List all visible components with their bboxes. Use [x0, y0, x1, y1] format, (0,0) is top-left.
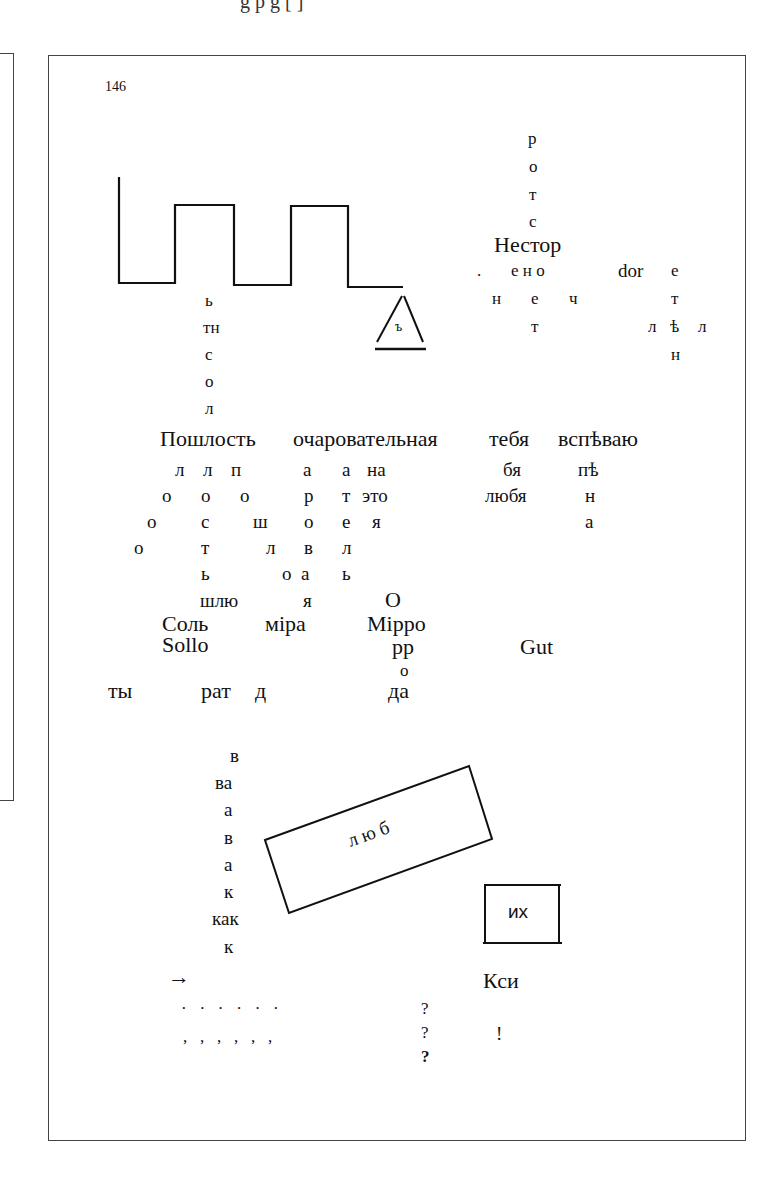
letter: л: [342, 538, 351, 557]
letter: в: [224, 828, 233, 847]
letter: о: [240, 486, 250, 505]
letter: т: [671, 290, 678, 307]
letter: ь: [342, 564, 351, 583]
letter: а: [303, 460, 311, 479]
letter: р: [304, 486, 314, 505]
letter: а: [342, 460, 350, 479]
letter: ь: [205, 292, 213, 309]
letter: пѣ: [578, 460, 598, 479]
commas-row: , , , , , ,: [183, 1028, 272, 1045]
word: да: [388, 680, 409, 702]
letter: ва: [215, 773, 232, 792]
word: Sollo: [162, 634, 208, 656]
question-mark: ?: [421, 1048, 430, 1065]
word: Пошлость: [160, 428, 256, 450]
letter: тн: [203, 319, 220, 336]
word: Міррo: [367, 613, 426, 635]
letter: О: [385, 589, 401, 611]
letter: в: [230, 746, 239, 765]
word-nestor: Нестор: [494, 234, 561, 256]
letter: т: [201, 538, 209, 557]
letter: о: [282, 564, 292, 583]
word: Gut: [520, 636, 553, 658]
word: д: [255, 680, 266, 702]
word: вспѣваю: [558, 428, 638, 450]
letter: т: [531, 318, 538, 335]
question-mark: ?: [421, 1024, 429, 1041]
vertical-letter: с: [529, 213, 537, 230]
letter: т: [342, 486, 350, 505]
word: pp: [392, 636, 414, 658]
letter: о: [162, 486, 172, 505]
letter: ѣ: [670, 318, 679, 335]
word: тебя: [489, 428, 529, 450]
word: как: [212, 909, 239, 928]
letter: л: [205, 400, 213, 417]
vertical-letter: т: [529, 186, 536, 203]
letter: е: [342, 512, 350, 531]
word: очаровательная: [293, 428, 438, 450]
letter: л: [648, 318, 656, 335]
vertical-letter: р: [528, 130, 537, 147]
triangle-letter: ъ: [395, 320, 402, 334]
letter: это: [362, 486, 388, 505]
letter: п: [231, 460, 241, 479]
word-dor: dor: [618, 261, 643, 280]
letter: ш: [253, 512, 268, 531]
letter: ь: [201, 564, 210, 583]
letter: о: [400, 662, 409, 679]
word: рат: [201, 680, 231, 702]
letter: л: [266, 538, 275, 557]
letter: с: [205, 346, 213, 363]
letter: о: [205, 373, 214, 390]
letter: а: [301, 564, 309, 583]
letter: к: [224, 882, 233, 901]
letter: е: [531, 290, 539, 307]
letter: с: [201, 512, 209, 531]
letter: о: [147, 512, 157, 531]
letter: на: [367, 460, 386, 479]
letter: л: [698, 318, 706, 335]
arrow-icon: →: [168, 966, 190, 988]
word: шлю: [200, 591, 238, 610]
word: міра: [265, 613, 306, 635]
letter: н: [585, 486, 595, 505]
letter: л: [175, 460, 184, 479]
letter: а: [224, 800, 232, 819]
question-mark: ?: [421, 1000, 429, 1017]
letter: в: [304, 538, 313, 557]
letter: к: [224, 937, 233, 956]
letter: н: [671, 346, 680, 363]
ikh-box-text: их: [508, 902, 528, 921]
letter: е: [671, 262, 679, 279]
exclamation-mark: !: [496, 1024, 502, 1043]
vertical-letter: о: [529, 158, 538, 175]
letter: я: [372, 512, 381, 531]
word: ты: [108, 680, 132, 702]
letter: я: [303, 591, 312, 610]
dot: .: [477, 262, 481, 279]
dots-row: · · · · · ·: [181, 1000, 279, 1017]
letter: л: [203, 460, 212, 479]
letter: о: [201, 486, 211, 505]
letter: о: [134, 538, 144, 557]
letter: а: [585, 512, 593, 531]
word-ksi: Кси: [483, 970, 519, 992]
letter: ч: [569, 290, 578, 307]
letter: любя: [485, 486, 527, 505]
letter: н: [492, 290, 501, 307]
letter: о: [304, 512, 314, 531]
letter: а: [224, 855, 232, 874]
square-wave-icon: [119, 177, 403, 287]
word-eno: е н о: [511, 262, 545, 279]
letter: бя: [503, 460, 521, 479]
